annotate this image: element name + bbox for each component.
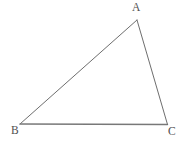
vertex-label-b: B — [11, 125, 19, 137]
vertex-label-c: C — [168, 126, 176, 138]
edge-ab — [20, 20, 137, 124]
vertex-label-a: A — [132, 2, 140, 14]
edge-ca — [137, 20, 168, 125]
triangle-diagram: A B C — [0, 0, 189, 150]
edge-bc — [20, 124, 168, 125]
triangle-svg — [0, 0, 189, 150]
